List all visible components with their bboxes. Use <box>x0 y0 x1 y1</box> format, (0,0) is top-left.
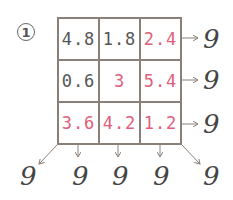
grid-cell-r2c2: 3 <box>99 60 140 102</box>
column-2-sum: 9 <box>112 163 129 189</box>
diagonal-right-sum: 9 <box>203 163 220 189</box>
grid-cell-r2c1: 0.6 <box>58 60 99 102</box>
diagonal-left-arrow-icon <box>39 145 57 164</box>
grid-cell-r3c1: 3.6 <box>58 102 99 144</box>
diagonal-left-sum: 9 <box>20 163 37 189</box>
column-1-sum: 9 <box>72 163 89 189</box>
grid-cell-r2c3: 5.4 <box>140 60 181 102</box>
diagonal-right-arrow-icon <box>182 145 200 164</box>
grid-cell-r1c1: 4.8 <box>58 18 99 60</box>
row-1-sum: 9 <box>203 26 220 52</box>
grid-cell-r1c3: 2.4 <box>140 18 181 60</box>
magic-square-grid: 4.8 1.8 2.4 0.6 3 5.4 3.6 4.2 1.2 <box>57 17 182 145</box>
row-3-sum: 9 <box>203 111 220 137</box>
problem-number-circle: 1 <box>17 23 35 41</box>
magic-square-worksheet: 1 4.8 1.8 2.4 0.6 3 5.4 3.6 4.2 1.2 9 9 … <box>0 0 233 200</box>
column-3-sum: 9 <box>153 163 170 189</box>
row-2-sum: 9 <box>203 67 220 93</box>
problem-number: 1 <box>21 26 30 39</box>
grid-cell-r3c3: 1.2 <box>140 102 181 144</box>
grid-cell-r3c2: 4.2 <box>99 102 140 144</box>
grid-cell-r1c2: 1.8 <box>99 18 140 60</box>
